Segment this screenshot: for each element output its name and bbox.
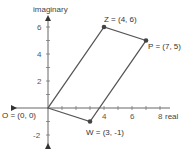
complex-plane-diagram: 4 6 8 6 4 2 -2 imaginary real O = (0, 0)… [0,0,189,155]
label-p: P = (7, 5) [148,42,181,51]
y-tick-label-6: 6 [37,23,42,32]
y-axis-label: imaginary [33,5,68,14]
parallelogram-owpz [48,27,146,122]
label-z: Z = (4, 6) [104,15,137,24]
label-o: O = (0, 0) [2,111,36,120]
x-axis-label: real [165,112,179,121]
point-w [88,119,93,124]
x-tick-label-4: 4 [102,112,107,121]
x-tick-label-6: 6 [130,112,135,121]
y-tick-label-2: 2 [37,77,42,86]
x-tick-label-8: 8 [158,112,163,121]
y-tick-label-4: 4 [37,50,42,59]
y-tick-label-neg2: -2 [33,131,41,140]
label-w: W = (3, -1) [86,128,124,137]
point-z [102,25,107,30]
